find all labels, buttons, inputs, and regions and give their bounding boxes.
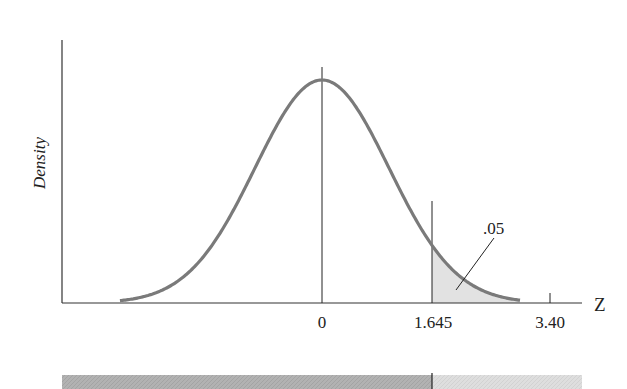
annotation-leader-line [456,238,494,290]
tail-area-label: .05 [483,219,504,238]
tick-label-3-40: 3.40 [535,313,565,332]
normal-distribution-chart: .05 Density 0 1.645 3.40 Z [0,0,627,389]
acceptance-region-bar [62,375,432,389]
rejection-region-shading [432,245,520,303]
tick-label-0: 0 [318,313,327,332]
density-curve [120,80,520,301]
y-axis-title: Density [30,137,49,190]
rejection-region-bar [432,375,582,389]
x-axis-title: Z [594,294,606,315]
tick-label-1-645: 1.645 [414,313,452,332]
